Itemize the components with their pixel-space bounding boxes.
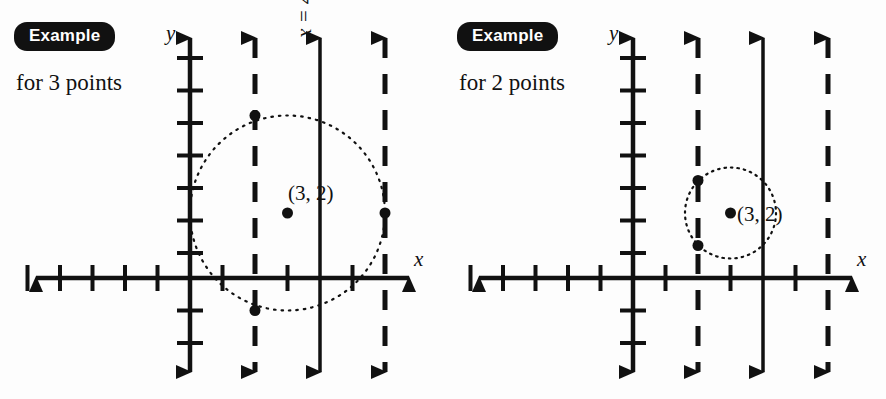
example-panel-right: Example for 2 points — [443, 0, 886, 399]
figure-page: Example for 3 points — [0, 0, 886, 399]
coordinate-graph-left: x y — [0, 0, 443, 399]
y-axis-label-right: y — [607, 21, 619, 45]
point-center-right — [725, 208, 736, 219]
point-6-2-left — [380, 208, 391, 219]
x-axis-label-right: x — [856, 247, 867, 271]
line-label-x4-left: x = 4 — [292, 0, 316, 39]
point-label-right: (3, 2) — [737, 202, 783, 226]
point-label-left: (3, 2) — [288, 181, 334, 205]
example-panel-left: Example for 3 points — [0, 0, 443, 399]
point-2-neg1-left — [250, 305, 261, 316]
x-axis-left: x — [28, 247, 425, 291]
y-axis-label-left: y — [164, 21, 176, 45]
point-2-1-right — [693, 240, 704, 251]
y-axis-left: y — [164, 21, 203, 372]
point-2-3-right — [693, 175, 704, 186]
y-axis-right: y — [607, 21, 646, 372]
x-axis-right: x — [471, 247, 868, 291]
coordinate-graph-right: x y — [443, 0, 886, 399]
point-2-5-left — [250, 110, 261, 121]
point-center-left — [282, 208, 293, 219]
x-axis-label-left: x — [413, 247, 424, 271]
